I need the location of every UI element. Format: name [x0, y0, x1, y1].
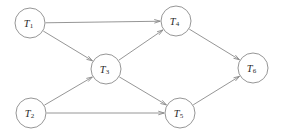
graph-node-t2[interactable]: T2: [16, 98, 46, 128]
graph-edge-t3-to-t5: [119, 77, 166, 105]
graph-edge-t2-to-t3: [44, 77, 92, 105]
nodes-layer: T1T2T3T4T5T6: [15, 6, 268, 128]
graph-figure: T1T2T3T4T5T6: [0, 0, 281, 138]
graph-edge-t5-to-t6: [193, 76, 239, 105]
graph-node-t6[interactable]: T6: [238, 53, 268, 83]
graph-canvas: T1T2T3T4T5T6: [0, 0, 281, 138]
graph-edge-t3-to-t4: [119, 30, 163, 60]
graph-edge-t1-to-t3: [43, 31, 92, 61]
graph-edge-t2-to-t5: [47, 111, 165, 115]
graph-node-t3[interactable]: T3: [91, 54, 121, 84]
graph-node-t1[interactable]: T1: [15, 8, 45, 38]
edges-layer: [43, 19, 239, 114]
graph-node-t5[interactable]: T5: [165, 98, 195, 128]
graph-node-t4[interactable]: T4: [161, 6, 191, 36]
graph-edge-t4-to-t6: [189, 29, 239, 60]
graph-edge-t1-to-t4: [46, 19, 161, 23]
